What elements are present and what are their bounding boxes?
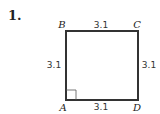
side-length-bottom: 3.1 bbox=[94, 102, 108, 112]
vertex-label-a: A bbox=[58, 102, 66, 113]
vertex-label-c: C bbox=[133, 19, 141, 30]
right-angle-marker-icon bbox=[66, 90, 76, 100]
square-outline bbox=[66, 31, 138, 100]
side-length-right: 3.1 bbox=[142, 60, 156, 70]
side-length-top: 3.1 bbox=[94, 20, 108, 30]
side-length-left: 3.1 bbox=[47, 60, 61, 70]
square-figure: B C A D 3.1 3.1 3.1 3.1 bbox=[0, 0, 160, 114]
vertex-label-b: B bbox=[57, 19, 65, 30]
vertex-label-d: D bbox=[132, 102, 141, 113]
